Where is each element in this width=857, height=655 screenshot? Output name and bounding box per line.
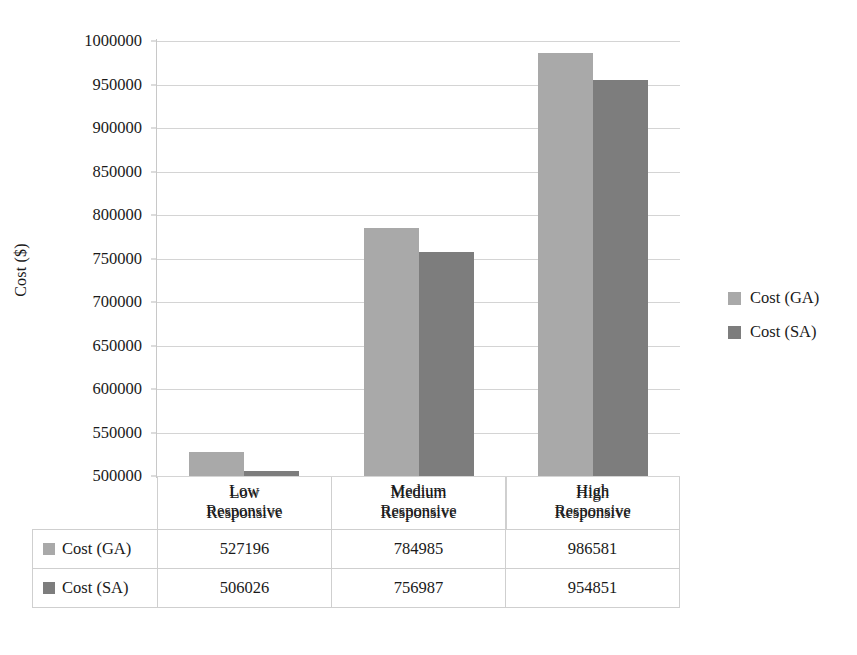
header-line-2: Responsive: [554, 503, 630, 522]
header-line-1: Medium: [391, 483, 447, 502]
y-axis-tick-label: 900000: [47, 120, 142, 137]
bar-ga-0: [189, 452, 244, 476]
y-axis-tick-label: 700000: [47, 294, 142, 311]
y-axis-tick-label: 650000: [47, 337, 142, 354]
table-cell-sa-medium: 756987: [332, 569, 506, 608]
y-axis-tick-label: 750000: [47, 250, 142, 267]
table-header-medium: MediumResponsive: [332, 477, 506, 530]
bar-ga-1: [364, 228, 419, 476]
table-cell-sa-high: 954851: [506, 569, 680, 608]
bar-sa-2: [593, 80, 648, 476]
table-header-low: LowResponsive: [158, 477, 332, 530]
y-axis-tick-label: 800000: [47, 207, 142, 224]
y-axis-tick-label: 600000: [47, 381, 142, 398]
bar-sa-1: [419, 252, 474, 476]
table-cell-ga-medium: 784985: [332, 530, 506, 569]
y-axis-tick-label: 950000: [47, 76, 142, 93]
bar-chart: Cost ($) 1000000950000900000850000800000…: [0, 0, 857, 655]
plot-area: [157, 41, 680, 476]
table-cell-ga-low: 527196: [158, 530, 332, 569]
chart-data-table: LowResponsive MediumResponsive HighRespo…: [32, 477, 680, 608]
table-cell-sa-low: 506026: [158, 569, 332, 608]
table-cell-ga-high: 986581: [506, 530, 680, 569]
table-corner-cell: [33, 477, 158, 530]
legend-label-ga: Cost (GA): [750, 288, 819, 308]
legend-swatch-icon-sa: [728, 326, 741, 339]
legend-item-cost-ga: Cost (GA): [728, 281, 853, 315]
y-axis-tick-label: 1000000: [47, 33, 142, 50]
header-line-2: Responsive: [380, 503, 456, 522]
legend-item-cost-sa: Cost (SA): [728, 315, 853, 349]
series-name-text: Cost (GA): [62, 539, 131, 558]
table-row: Cost (GA) 527196 784985 986581: [33, 530, 680, 569]
legend-label-sa: Cost (SA): [750, 322, 816, 342]
header-line-2: Responsive: [206, 503, 282, 522]
bar-series-group: [157, 41, 680, 476]
table-header-high: HighResponsive: [506, 477, 680, 530]
legend-swatch-icon-ga: [728, 292, 741, 305]
table-swatch-icon-ga: [43, 543, 55, 555]
table-series-label-ga: Cost (GA): [33, 530, 158, 569]
bar-ga-2: [538, 53, 593, 476]
y-axis-title: Cost ($): [12, 210, 30, 330]
header-line-1: Low: [229, 483, 259, 502]
y-axis-tick-label: 550000: [47, 424, 142, 441]
y-axis-tick-labels: 1000000950000900000850000800000750000700…: [55, 41, 150, 476]
table-row: Cost (SA) 506026 756987 954851: [33, 569, 680, 608]
table-swatch-icon-sa: [43, 582, 55, 594]
table-header-row: LowResponsive MediumResponsive HighRespo…: [33, 477, 680, 530]
y-axis-tick-label: 850000: [47, 163, 142, 180]
bar-sa-0: [244, 471, 299, 476]
series-name-text: Cost (SA): [62, 578, 128, 597]
table-series-label-sa: Cost (SA): [33, 569, 158, 608]
header-line-1: High: [576, 483, 609, 502]
legend: Cost (GA) Cost (SA): [728, 281, 853, 349]
